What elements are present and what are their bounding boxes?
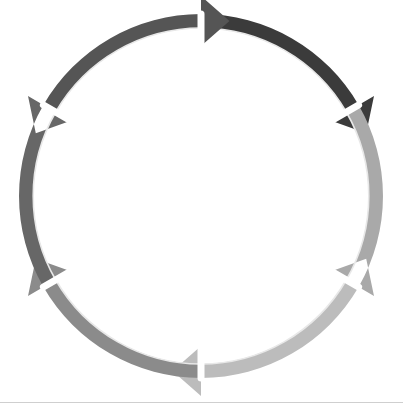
divider-upper-right <box>201 105 359 196</box>
cycle-segment-abuse-label: Abuse <box>241 101 283 117</box>
cycle-segment-day-to-day[interactable]: Day-to-day <box>28 196 201 378</box>
cycle-segment-abuse[interactable]: Abuse <box>201 14 374 196</box>
cycle-segment-day-to-day-shape <box>28 196 201 378</box>
cycle-segment-make-excuses-label: Make excuses <box>278 187 332 222</box>
cycle-segment-abuse-shape <box>201 14 374 196</box>
divider-lower-left <box>43 196 201 287</box>
cycle-segment-make-excuses[interactable]: Make excuses <box>201 105 383 296</box>
bottom-divider-rule <box>0 402 403 403</box>
six-stage-cycle-diagram: Abuse Make excuses Everything is great <box>0 0 403 409</box>
cycle-segment-everything-is-great-label: Everything is great <box>218 285 292 320</box>
cycle-segment-event-sets-off-label: Event sets off <box>109 89 182 124</box>
divider-upper-left <box>43 105 201 196</box>
cycle-diagram-page: Abuse Make excuses Everything is great <box>0 0 403 409</box>
cycle-segment-tension-builds[interactable]: Tension builds <box>19 96 201 287</box>
cycle-segment-day-to-day-label: Day-to-day <box>108 291 181 307</box>
cycle-segment-tension-builds-label: Tension builds <box>69 185 124 220</box>
